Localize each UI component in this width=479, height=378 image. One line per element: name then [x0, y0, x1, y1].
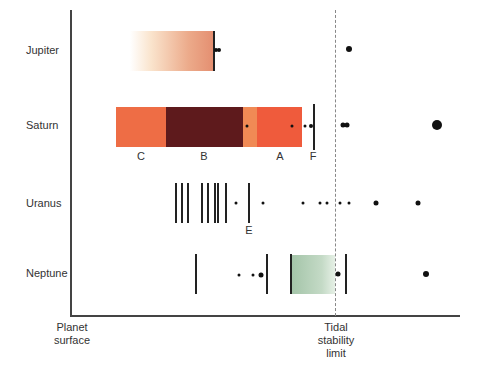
- ring-label-a: A: [276, 150, 283, 162]
- saturn-moon: [291, 125, 294, 128]
- neptune-moon: [252, 274, 255, 277]
- saturn-ring-f: [313, 104, 315, 150]
- jupiter-ring-band: [130, 31, 214, 71]
- uranus-ring: [207, 183, 209, 223]
- planet-surface-label-line1: Planet: [54, 321, 90, 334]
- planet-label-neptune: Neptune: [26, 267, 68, 279]
- ring-label-b: B: [200, 150, 207, 162]
- neptune-moon: [259, 273, 264, 278]
- uranus-moon: [302, 202, 305, 205]
- uranus-moon: [326, 202, 329, 205]
- ring-label-f: F: [310, 150, 317, 162]
- neptune-moon: [336, 272, 341, 277]
- saturn-moon: [345, 123, 350, 128]
- neptune-ring: [195, 254, 197, 294]
- neptune-ring: [345, 254, 347, 294]
- tidal-label-line3: limit: [318, 347, 355, 360]
- uranus-moon: [319, 202, 322, 205]
- uranus-ring: [187, 183, 189, 223]
- uranus-ring: [201, 183, 203, 223]
- saturn-moon: [246, 125, 249, 128]
- jupiter-moon: [346, 46, 352, 52]
- uranus-moon: [348, 202, 351, 205]
- uranus-moon: [235, 202, 238, 205]
- neptune-ring: [290, 254, 292, 294]
- planet-label-jupiter: Jupiter: [26, 44, 59, 56]
- ring-label-e: E: [245, 224, 252, 236]
- planet-surface-label-line2: surface: [54, 334, 90, 347]
- planet-label-uranus: Uranus: [26, 197, 61, 209]
- saturn-moon: [304, 125, 307, 128]
- uranus-ring-e: [248, 183, 250, 223]
- ring-label-c: C: [137, 150, 145, 162]
- tidal-stability-limit-label: Tidal stability limit: [318, 321, 355, 360]
- uranus-ring: [225, 183, 227, 223]
- saturn-moon-large: [432, 120, 442, 130]
- tidal-label-line1: Tidal: [318, 321, 355, 334]
- neptune-ring-band: [291, 255, 335, 294]
- neptune-ring: [266, 254, 268, 294]
- uranus-moon: [262, 202, 265, 205]
- jupiter-moon: [217, 48, 221, 52]
- neptune-moon: [238, 274, 241, 277]
- y-axis-line: [70, 10, 72, 316]
- uranus-ring: [214, 183, 216, 223]
- saturn-ring-b: [166, 107, 243, 147]
- saturn-ring-a: [257, 107, 302, 147]
- saturn-ring-c: [116, 107, 166, 147]
- uranus-moon: [374, 201, 379, 206]
- uranus-ring: [181, 183, 183, 223]
- uranus-moon: [339, 202, 342, 205]
- tidal-stability-limit-line: [335, 10, 336, 316]
- uranus-ring: [175, 183, 177, 223]
- x-axis-line: [70, 315, 460, 317]
- planet-label-saturn: Saturn: [26, 119, 58, 131]
- neptune-moon: [423, 271, 429, 277]
- uranus-moon: [416, 201, 421, 206]
- uranus-ring: [217, 183, 219, 223]
- tidal-label-line2: stability: [318, 334, 355, 347]
- planet-surface-label: Planet surface: [54, 321, 90, 347]
